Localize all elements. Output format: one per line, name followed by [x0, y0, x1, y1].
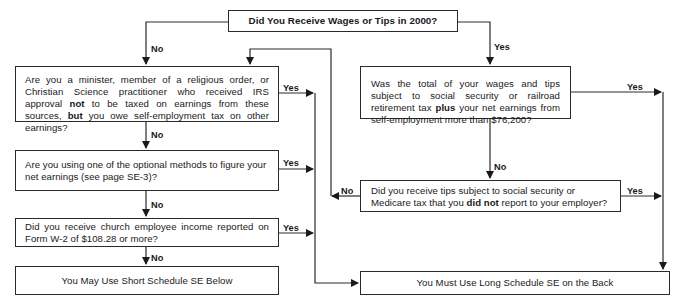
right-q2-yes-label: Yes [627, 186, 643, 196]
optional-methods-question-text: Are you using one of the optional method… [25, 159, 266, 182]
right-q1-yes-label: Yes [627, 82, 643, 92]
left-q2-no-label: No [151, 200, 163, 210]
unreported-tips-question-box: Did you receive tips subject to social s… [360, 180, 621, 212]
start-question-text: Did You Receive Wages or Tips in 2000? [249, 15, 438, 27]
start-question-box: Did You Receive Wages or Tips in 2000? [228, 10, 458, 32]
short-schedule-result-box: You May Use Short Schedule SE Below [15, 266, 279, 295]
minister-question-box: Are you a minister, member of a religiou… [15, 66, 279, 122]
wages-threshold-question-box: Was the total of your wages and tips sub… [360, 66, 571, 119]
right-q2-no-label: No [341, 186, 353, 196]
right-q1-no-label: No [494, 162, 506, 172]
start-yes-label: Yes [494, 42, 510, 52]
left-q3-yes-label: Yes [283, 223, 299, 233]
short-schedule-result-text: You May Use Short Schedule SE Below [62, 275, 233, 287]
left-q1-yes-label: Yes [283, 83, 299, 93]
start-no-label: No [151, 44, 163, 54]
optional-methods-question-box: Are you using one of the optional method… [15, 150, 279, 191]
left-q3-no-label: No [151, 253, 163, 263]
church-income-question-box: Did you receive church employee income r… [15, 218, 279, 247]
long-schedule-result-box: You Must Use Long Schedule SE on the Bac… [360, 271, 670, 295]
church-income-question-text: Did you receive church employee income r… [25, 221, 269, 244]
left-q1-no-label: No [151, 130, 163, 140]
long-schedule-result-text: You Must Use Long Schedule SE on the Bac… [417, 277, 614, 289]
left-q2-yes-label: Yes [283, 158, 299, 168]
